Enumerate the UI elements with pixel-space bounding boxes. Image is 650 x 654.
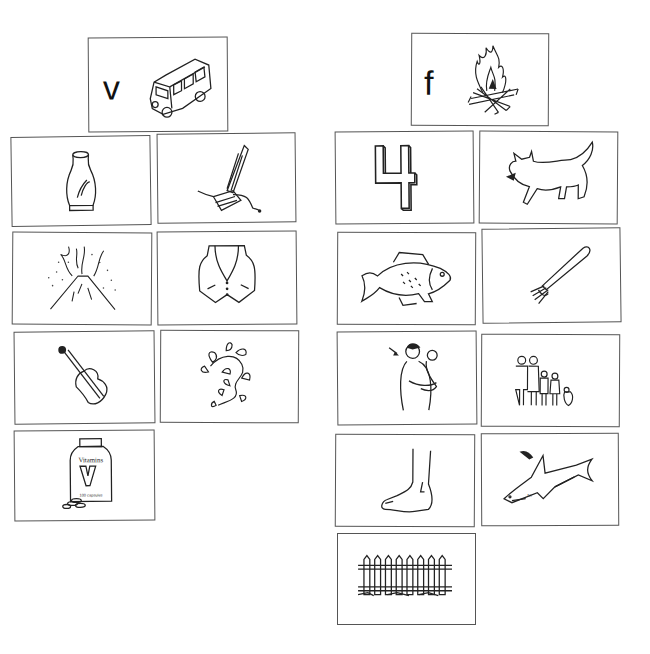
header-card-v: v (88, 37, 229, 133)
picture-card-fin: fin (481, 433, 619, 527)
picture-card-vitamins: Vitamins 100 capsules (14, 429, 156, 521)
vacuum-icon (158, 133, 296, 222)
picture-card-family (481, 334, 620, 428)
picture-card-fish (337, 232, 476, 326)
picture-card-vase (10, 135, 151, 227)
number-four-icon (336, 131, 474, 223)
fence-icon (338, 534, 475, 624)
picture-card-fence (337, 533, 476, 625)
picture-card-volcano (12, 232, 153, 326)
picture-card-vine (160, 330, 299, 424)
vitamin-count: 100 capsules (79, 492, 102, 497)
picture-card-vacuum (157, 132, 297, 223)
family-icon (482, 335, 619, 427)
picture-card-vest (157, 230, 298, 325)
picture-card-father (337, 330, 478, 425)
fork-icon (482, 228, 620, 323)
volcano-icon (13, 233, 152, 325)
father-icon (338, 331, 477, 424)
vase-icon (11, 136, 150, 226)
van-icon (89, 38, 228, 132)
fox-icon (480, 132, 618, 224)
vitamins-icon: Vitamins 100 capsules (15, 430, 155, 520)
vitamin-label: Vitamins (78, 456, 103, 463)
shark-fin-icon: fin (482, 434, 618, 526)
picture-card-four (335, 130, 475, 224)
picture-card-fox (479, 131, 619, 225)
vest-icon (158, 231, 297, 324)
fire-icon (412, 34, 548, 126)
vine-icon (161, 331, 298, 423)
violin-icon (15, 331, 155, 423)
picture-card-fork (481, 227, 621, 324)
picture-card-foot (335, 434, 475, 528)
header-card-f: f (411, 33, 549, 127)
fish-icon (338, 233, 475, 325)
fin-tag: fin (528, 493, 532, 498)
foot-icon (336, 435, 474, 527)
picture-card-violin (14, 330, 156, 424)
